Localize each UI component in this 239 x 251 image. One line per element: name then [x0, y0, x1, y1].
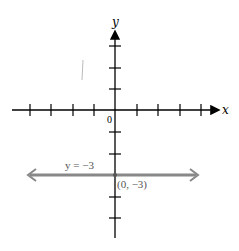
y-axis-label: y [111, 15, 119, 29]
line-label: y = −3 [65, 159, 94, 171]
stray-mark [82, 60, 83, 80]
point-label: (0, −3) [117, 178, 147, 191]
graph: y x 0 y = −3 (0, −3) [0, 0, 239, 251]
x-axis-label: x [222, 103, 229, 117]
origin-label: 0 [107, 114, 112, 125]
line-y-minus-3 [28, 169, 198, 181]
